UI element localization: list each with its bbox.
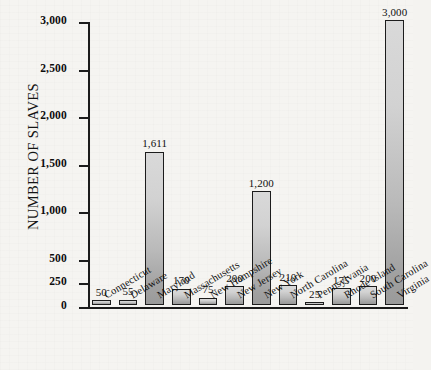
bar[interactable] <box>305 302 324 305</box>
x-axis-line <box>88 307 408 309</box>
y-tick-label: 1,500 <box>40 157 67 169</box>
y-tick-label: 1,000 <box>40 204 67 216</box>
bar-group[interactable]: 3,000 <box>385 6 404 306</box>
y-tick-mark: 1,500 <box>79 165 89 167</box>
y-tick-label: 0 <box>61 299 67 311</box>
bar-value-label: 1,611 <box>142 137 167 149</box>
y-axis-title: NUMBER OF SLAVES <box>25 57 42 257</box>
bar[interactable] <box>119 300 138 305</box>
y-tick-label: 2,000 <box>40 109 67 121</box>
y-tick-mark: 3,000 <box>79 22 89 24</box>
y-tick-mark: 2,500 <box>79 70 89 72</box>
y-tick-label: 2,500 <box>40 62 67 74</box>
y-tick-mark: 2,000 <box>79 117 89 119</box>
y-tick-mark: 0 <box>79 307 89 309</box>
y-tick-mark: 500 <box>79 260 89 262</box>
bar-value-label: 3,000 <box>382 6 407 18</box>
bar[interactable] <box>92 300 111 305</box>
y-tick-mark: 250 <box>79 283 89 285</box>
y-tick-label: 3,000 <box>40 14 67 26</box>
y-tick-label: 250 <box>49 275 67 287</box>
y-tick-label: 500 <box>49 252 67 264</box>
y-tick-mark: 1,000 <box>79 212 89 214</box>
bar-value-label: 1,200 <box>249 177 274 189</box>
